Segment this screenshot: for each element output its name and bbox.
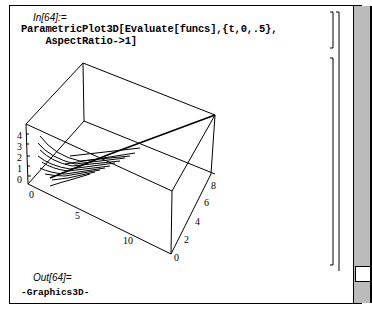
cell-brackets xyxy=(330,12,339,271)
svg-text:1: 1 xyxy=(17,163,22,174)
svg-text:0: 0 xyxy=(17,174,22,185)
output-value: -Graphics3D- xyxy=(21,287,89,298)
svg-text:3: 3 xyxy=(17,141,22,152)
svg-text:5: 5 xyxy=(75,210,80,221)
svg-text:0: 0 xyxy=(29,189,34,200)
svg-text:10: 10 xyxy=(123,235,133,246)
notebook-window: In[64]:= ParametricPlot3D[Evaluate[funcs… xyxy=(9,5,362,304)
graphics3d-plot[interactable]: 4 3 2 1 0 0 5 10 0 2 4 6 8 xyxy=(10,6,340,271)
x-axis-ticks: 0 5 10 xyxy=(29,189,133,246)
scrollbar-thumb[interactable] xyxy=(355,266,371,282)
svg-text:8: 8 xyxy=(211,180,216,191)
svg-text:6: 6 xyxy=(204,197,209,208)
output-prompt-label: Out[64]= xyxy=(33,272,72,283)
svg-text:2: 2 xyxy=(184,234,189,245)
svg-text:4: 4 xyxy=(17,130,22,141)
svg-text:2: 2 xyxy=(17,152,22,163)
svg-text:4: 4 xyxy=(195,216,200,227)
notebook-content: In[64]:= ParametricPlot3D[Evaluate[funcs… xyxy=(10,6,340,303)
z-axis-ticks: 4 3 2 1 0 xyxy=(17,130,22,185)
svg-text:0: 0 xyxy=(174,252,179,263)
y-axis-ticks: 0 2 4 6 8 xyxy=(174,180,216,263)
vertical-scrollbar[interactable] xyxy=(353,6,372,303)
